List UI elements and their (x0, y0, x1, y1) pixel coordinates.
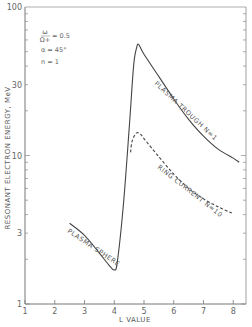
plasma-curve-solid (70, 44, 240, 270)
y-tick-label: 10 (12, 152, 22, 161)
annot-ratio-denominator: Ω+ (40, 36, 50, 44)
annot-ratio-numerator: ω (42, 28, 47, 36)
data-series (70, 44, 240, 270)
x-tick-label: 6 (171, 307, 176, 316)
y-tick-label: 1 (17, 300, 22, 309)
annot-ratio-value: = 0.5 (52, 32, 70, 40)
parameter-annotation: ω Ω+ = 0.5 α = 45° n = 1 (40, 28, 70, 66)
x-tick-label: 8 (231, 307, 236, 316)
x-tick-label: 1 (22, 307, 27, 316)
x-axis-title: L VALUE (119, 316, 151, 324)
x-axis-ticks: 12345678 (22, 300, 235, 316)
y-tick-label: 100 (7, 3, 22, 12)
x-tick-label: 7 (201, 307, 206, 316)
energy-vs-l-chart: 12345678 131030100 L VALUE RESONANT ELEC… (0, 0, 252, 327)
x-tick-label: 2 (52, 307, 57, 316)
ring-current-curve-dashed (131, 133, 232, 213)
label-plasma-sphere: PLASMA SPHERE (66, 227, 122, 268)
x-tick-label: 5 (141, 307, 146, 316)
x-tick-label: 4 (112, 307, 117, 316)
y-tick-label: 3 (17, 229, 22, 238)
x-tick-label: 3 (82, 307, 87, 316)
label-plasma-trough: PLASMA TROUGH N=1 (153, 80, 219, 143)
annot-n: n = 1 (41, 58, 59, 66)
y-axis-title: RESONANT ELECTRON ENERGY, MeV (4, 86, 12, 229)
annot-alpha: α = 45° (41, 46, 66, 54)
y-tick-label: 30 (12, 81, 22, 90)
label-ring-current: RING CURRENT N=10 (156, 163, 224, 219)
